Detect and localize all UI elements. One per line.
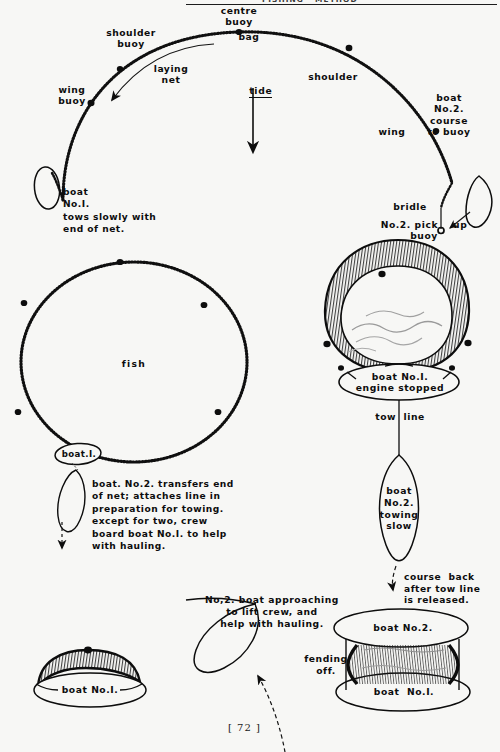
page-number: [ 72 ] bbox=[228, 722, 261, 733]
label-wing-right: wing bbox=[371, 126, 413, 137]
label-tide: tide bbox=[231, 74, 275, 109]
label-centre-buoy: centre buoy bbox=[199, 5, 279, 28]
label-boat-no1-engine-stopped: boat No.I. engine stopped bbox=[340, 371, 460, 394]
label-shoulder-buoy: shoulder buoy bbox=[94, 27, 168, 50]
label-boat-no1-bottom-left: boat No.I. bbox=[50, 684, 130, 695]
label-boat-no2-course: boat No.2. course to buoy bbox=[418, 92, 480, 138]
label-fending-off: fending off. bbox=[300, 653, 352, 676]
label-transfer-note: boat. No.2. transfers end of net; attach… bbox=[92, 478, 292, 552]
label-fish: fish bbox=[110, 358, 158, 369]
label-pick-up-buoy: No.2. pick up buoy bbox=[362, 219, 486, 242]
label-boat-1-ring: boat.I. bbox=[58, 449, 100, 460]
label-laying-net: laying net bbox=[143, 63, 199, 86]
label-approach-note: No,2. boat approaching to lift crew, and… bbox=[200, 594, 344, 630]
label-wing-buoy: wing buoy bbox=[48, 84, 96, 107]
tide-text: tide bbox=[249, 85, 272, 97]
label-bag: bag bbox=[228, 31, 270, 42]
label-boat-no2-towing-slow: boat No.2. towing slow bbox=[375, 485, 423, 532]
label-shoulder-right: shoulder bbox=[300, 71, 366, 82]
label-bridle: bridle bbox=[385, 201, 435, 212]
label-course-back: course back after tow line is released. bbox=[404, 572, 500, 607]
label-boat-no2-bottom: boat No.2. bbox=[358, 622, 448, 633]
label-boat-no1-tows: boat No.I. tows slowly with end of net. bbox=[63, 186, 223, 236]
label-tow-line: tow line bbox=[360, 411, 440, 422]
label-boat-no1-bottom-right: boat No.I. bbox=[360, 686, 448, 697]
